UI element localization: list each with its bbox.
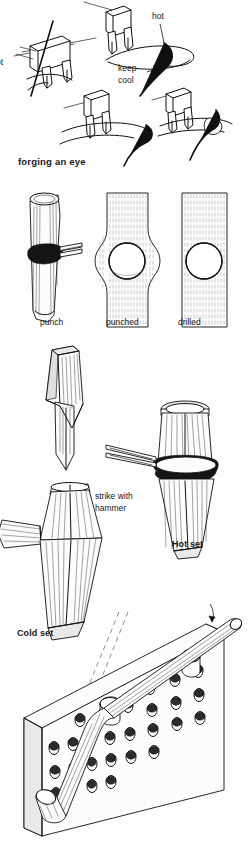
eye-step-4	[152, 88, 232, 160]
eye-step-2	[84, 2, 194, 96]
label-keep: keep	[118, 64, 136, 73]
label-strike-with: strike with	[95, 492, 133, 501]
label-punched: punched	[106, 318, 139, 327]
figure-bending-plate	[0, 610, 248, 841]
label-hammer: hammer	[95, 504, 126, 513]
punched-bar	[95, 193, 160, 327]
label-hot-right: hot	[152, 12, 164, 21]
punch-tool	[28, 193, 82, 322]
eye-step-3	[60, 90, 152, 166]
punching-row-drawing	[0, 185, 248, 335]
eye-step-1	[14, 21, 96, 96]
label-hot-left-clipped: ot	[0, 58, 3, 67]
illustration-page: hot ot keep cool forging an eye	[0, 0, 248, 841]
caption-forging-an-eye: forging an eye	[18, 157, 86, 167]
label-hot-set: Hot set	[172, 540, 203, 550]
drilled-bar	[182, 193, 227, 327]
label-cool: cool	[118, 76, 134, 85]
forging-eye-drawing	[0, 0, 248, 180]
figure-punching-row: punch punched drilled	[0, 185, 248, 335]
label-drilled: drilled	[178, 318, 201, 327]
label-punch: punch	[40, 318, 63, 327]
figure-forging-an-eye: hot ot keep cool forging an eye	[0, 0, 248, 180]
bending-plate-drawing	[0, 610, 248, 841]
plate-edge-left	[24, 718, 42, 836]
